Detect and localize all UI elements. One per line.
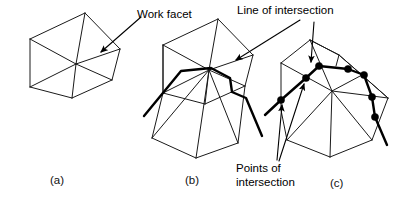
mesh-edge-a-4 xyxy=(30,87,72,98)
mesh-edge-a-10 xyxy=(72,64,76,98)
mesh-edge-b-0 xyxy=(163,19,218,45)
points-of-intersection-leader-1 xyxy=(277,105,282,160)
callout-leader-lines xyxy=(101,17,314,161)
panel-c-intersection-points xyxy=(277,62,378,120)
points-of-intersection-label-line2: intersection xyxy=(236,176,295,188)
mesh-edge-a-6 xyxy=(30,39,76,64)
figure-drawing xyxy=(0,0,408,202)
mesh-edge-c-6 xyxy=(330,140,372,157)
work-facet-leader xyxy=(101,17,141,52)
mesh-edge-c-18 xyxy=(310,40,339,55)
points-of-intersection-label: Points of intersection xyxy=(236,162,295,190)
mesh-edge-b-1 xyxy=(218,19,253,55)
caption-a: (a) xyxy=(50,174,64,188)
line-of-intersection-label: Line of intersection xyxy=(237,4,334,18)
mesh-edge-b-15 xyxy=(196,143,238,158)
mesh-edge-b-8 xyxy=(209,55,253,70)
intersection-point-dot-3 xyxy=(344,65,351,72)
mesh-edge-a-9 xyxy=(76,64,112,80)
line-of-intersection-leader-b xyxy=(236,20,300,60)
mesh-edge-c-0 xyxy=(281,40,310,63)
mesh-edge-c-11 xyxy=(332,75,362,91)
mesh-edge-b-2 xyxy=(245,55,253,86)
mesh-edge-a-1 xyxy=(85,13,120,49)
intersection-point-dot-1 xyxy=(302,74,309,81)
mesh-edge-b-4 xyxy=(163,93,205,104)
mesh-edge-b-7 xyxy=(209,19,218,70)
mesh-edge-c-13 xyxy=(330,91,332,157)
mesh-edge-c-2 xyxy=(336,55,339,66)
mesh-edge-c-15 xyxy=(332,91,372,140)
points-of-intersection-leader-2 xyxy=(279,84,304,161)
mesh-edge-a-2 xyxy=(112,49,120,80)
panel-a-mesh xyxy=(30,13,120,98)
intersection-point-dot-4 xyxy=(360,71,367,78)
work-facet-label: Work facet xyxy=(137,8,192,22)
mesh-edge-a-11 xyxy=(30,64,76,87)
figure-container: Work facet Line of intersection Points o… xyxy=(0,0,408,202)
intersection-point-dot-5 xyxy=(368,93,375,100)
intersection-point-dot-2 xyxy=(315,62,322,69)
mesh-edge-a-7 xyxy=(76,13,85,64)
mesh-edge-b-6 xyxy=(163,45,209,70)
mesh-edge-c-12 xyxy=(332,91,388,98)
mesh-edge-c-4 xyxy=(281,110,287,140)
mesh-edge-a-0 xyxy=(30,13,85,39)
mesh-edge-b-14 xyxy=(152,138,196,158)
mesh-edge-a-8 xyxy=(76,49,120,64)
mesh-edge-c-5 xyxy=(287,140,330,157)
mesh-edge-a-3 xyxy=(72,80,112,98)
caption-b: (b) xyxy=(185,174,199,188)
mesh-edge-b-11 xyxy=(163,70,209,93)
points-of-intersection-label-line1: Points of xyxy=(236,162,281,174)
intersection-point-dot-6 xyxy=(371,113,378,120)
caption-c: (c) xyxy=(330,177,343,191)
intersection-point-dot-0 xyxy=(277,96,284,103)
